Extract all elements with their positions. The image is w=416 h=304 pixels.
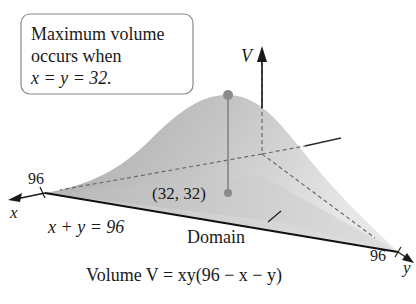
max-point (223, 90, 233, 100)
volume-surface-diagram: Maximum volume occurs when x = y = 32. V… (0, 0, 416, 304)
max-point-label: (32, 32) (152, 184, 206, 203)
callout-line-2: occurs when (31, 46, 121, 66)
v-axis-arrow-icon (257, 46, 267, 62)
v-axis-label: V (241, 46, 254, 66)
x-axis-label: x (9, 203, 18, 222)
constraint-label: x + y = 96 (47, 217, 124, 237)
callout-line-1: Maximum volume (31, 24, 165, 44)
x-tick-label: 96 (28, 170, 44, 187)
callout-line-3: x = y = 32. (30, 68, 112, 88)
domain-point (224, 189, 232, 197)
y-axis-label: y (401, 258, 411, 277)
domain-label: Domain (187, 227, 245, 247)
caption: Volume V = xy(96 − x − y) (86, 265, 282, 286)
x-axis-arrow-icon (8, 193, 22, 202)
axis-back-segment (305, 138, 341, 146)
y-tick-label: 96 (370, 247, 386, 264)
